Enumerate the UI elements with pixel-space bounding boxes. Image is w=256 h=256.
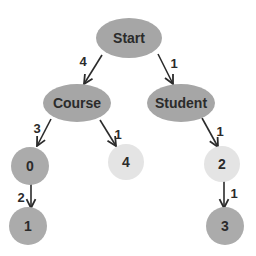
edge-0-1: 2 — [17, 183, 31, 208]
edge-course-0: 3 — [33, 119, 51, 146]
node-1: 1 — [9, 207, 47, 245]
edge-weight-start-student: 1 — [170, 56, 177, 71]
edge-weight-student-2: 1 — [216, 124, 223, 139]
tree-diagram: 4 1 3 1 1 2 1 Start Course Student 0 — [0, 0, 256, 256]
node-course: Course — [43, 84, 111, 122]
edge-student-2: 1 — [202, 118, 224, 147]
edge-course-4: 1 — [100, 120, 122, 146]
edge-2-3: 1 — [224, 180, 238, 208]
node-4: 4 — [108, 144, 144, 180]
node-label-start: Start — [113, 30, 145, 46]
node-label-0: 0 — [26, 158, 34, 174]
node-label-1: 1 — [24, 218, 32, 234]
node-label-course: Course — [53, 95, 101, 111]
edge-weight-course-4: 1 — [114, 127, 121, 142]
node-label-4: 4 — [122, 154, 130, 170]
node-start: Start — [96, 18, 162, 58]
edge-weight-2-3: 1 — [230, 186, 237, 201]
node-2: 2 — [204, 146, 240, 182]
node-3: 3 — [206, 207, 244, 245]
node-0: 0 — [11, 147, 49, 185]
node-label-student: Student — [155, 95, 207, 111]
node-label-3: 3 — [221, 218, 229, 234]
edge-start-student: 1 — [158, 54, 178, 84]
node-label-2: 2 — [218, 156, 226, 172]
edge-start-course: 4 — [79, 54, 102, 85]
node-student: Student — [147, 84, 215, 122]
edge-weight-start-course: 4 — [79, 54, 87, 69]
edge-weight-0-1: 2 — [17, 190, 24, 205]
edge-weight-course-0: 3 — [33, 121, 40, 136]
